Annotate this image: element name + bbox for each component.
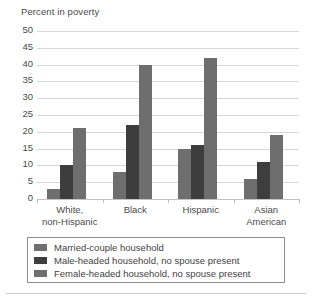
bar [139, 65, 152, 199]
legend-label: Male-headed household, no spouse present [54, 255, 239, 266]
y-tick-label-25: 25 [7, 109, 33, 119]
bar [270, 135, 283, 199]
legend-item[interactable]: Male-headed household, no spouse present [34, 254, 284, 267]
axis-tick [168, 199, 169, 203]
axis-tick [103, 199, 104, 203]
axis-tick [234, 199, 235, 203]
y-axis-tick-labels: 50454035302520151050 [5, 31, 33, 199]
y-tick-label-15: 15 [7, 143, 33, 153]
bar [73, 128, 86, 199]
bar [113, 172, 126, 199]
bar [257, 162, 270, 199]
y-tick-label-10: 10 [7, 159, 33, 169]
bar [60, 165, 73, 199]
plot-area [37, 31, 299, 199]
bar [244, 179, 257, 199]
chart-legend: Married-couple householdMale-headed hous… [27, 237, 285, 283]
legend-swatch-icon [34, 244, 47, 251]
legend-item[interactable]: Female-headed household, no spouse prese… [34, 267, 284, 280]
legend-label: Married-couple household [54, 242, 164, 253]
y-tick-label-50: 50 [7, 25, 33, 35]
legend-label: Female-headed household, no spouse prese… [54, 268, 250, 279]
bottom-divider [6, 293, 306, 294]
poverty-bar-chart: Percent in poverty 50454035302520151050 … [0, 0, 312, 302]
bar [204, 58, 217, 199]
y-tick-label-35: 35 [7, 75, 33, 85]
bar [126, 125, 139, 199]
y-tick-label-30: 30 [7, 92, 33, 102]
y-tick-label-5: 5 [7, 176, 33, 186]
y-tick-label-45: 45 [7, 42, 33, 52]
x-tick-label: AsianAmerican [224, 204, 310, 227]
bar-group [113, 31, 152, 199]
bar-group [47, 31, 86, 199]
bar [178, 149, 191, 199]
axis-tick [299, 199, 300, 203]
y-tick-label-40: 40 [7, 59, 33, 69]
y-tick-label-0: 0 [7, 193, 33, 203]
bar [47, 189, 60, 199]
bar [191, 145, 204, 199]
bar-group [178, 31, 217, 199]
y-axis-title: Percent in poverty [21, 6, 99, 17]
axis-tick [37, 199, 38, 203]
legend-swatch-icon [34, 257, 47, 264]
legend-item[interactable]: Married-couple household [34, 241, 284, 254]
y-tick-label-20: 20 [7, 126, 33, 136]
bar-group [244, 31, 283, 199]
legend-swatch-icon [34, 270, 47, 277]
